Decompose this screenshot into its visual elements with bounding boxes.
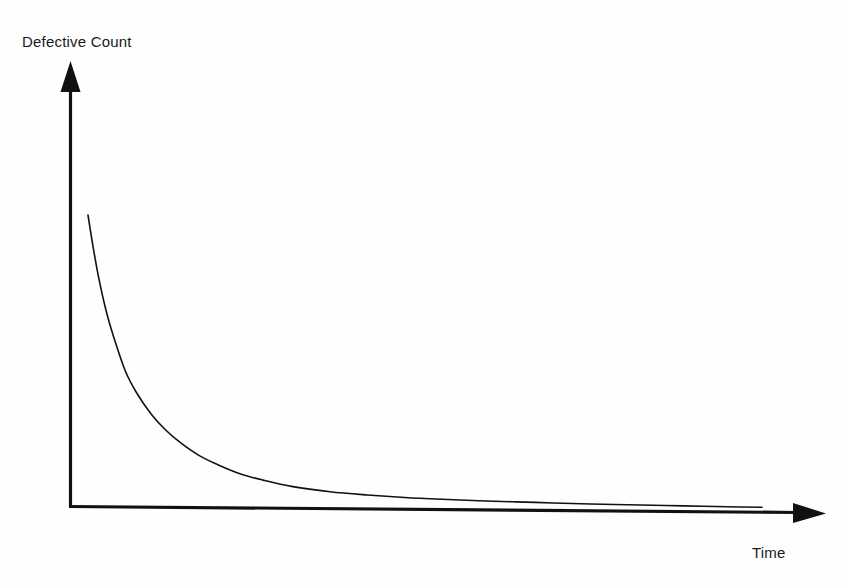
x-axis-label: Time bbox=[752, 545, 786, 560]
data-series-group bbox=[88, 215, 762, 507]
axes-group bbox=[61, 61, 827, 523]
x-axis-arrowhead-icon bbox=[793, 503, 826, 523]
chart-canvas bbox=[0, 0, 845, 587]
x-axis-line bbox=[69, 507, 797, 513]
chart-figure: Defective Count Time bbox=[0, 0, 845, 587]
y-axis-arrowhead-icon bbox=[61, 61, 81, 92]
y-axis-label: Defective Count bbox=[22, 34, 132, 49]
decay-curve-line bbox=[88, 215, 762, 507]
